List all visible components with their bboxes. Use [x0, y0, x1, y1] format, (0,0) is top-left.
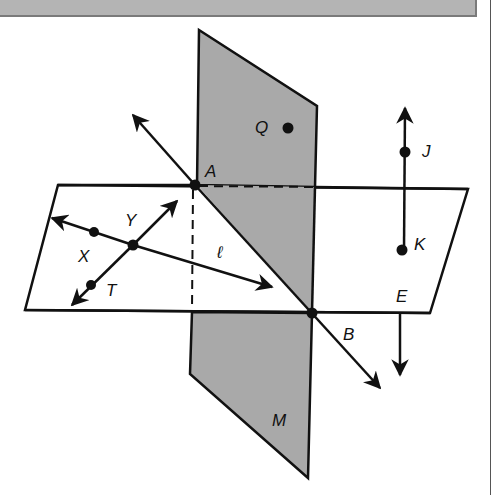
label-k: K [414, 235, 426, 254]
point-x [89, 227, 99, 237]
label-m: M [272, 411, 287, 430]
line-ab [133, 115, 195, 185]
label-l: ℓ [216, 243, 223, 262]
label-j: J [421, 142, 431, 161]
point-q [283, 123, 294, 134]
line-jk [404, 108, 405, 250]
label-e: E [396, 287, 408, 306]
plane-m-lower [190, 312, 312, 478]
label-t: T [106, 281, 118, 300]
point-j [400, 147, 411, 158]
point-intersection [128, 240, 139, 251]
label-x: X [77, 247, 90, 266]
label-y: Y [125, 211, 138, 230]
point-a [190, 180, 201, 191]
point-k [397, 245, 408, 256]
point-t [86, 280, 96, 290]
point-b [307, 308, 318, 319]
label-b: B [343, 325, 354, 344]
label-a: A [204, 162, 216, 181]
label-q: Q [255, 118, 268, 137]
geometry-diagram: Q A J K E B Y X T ℓ M [0, 0, 496, 495]
